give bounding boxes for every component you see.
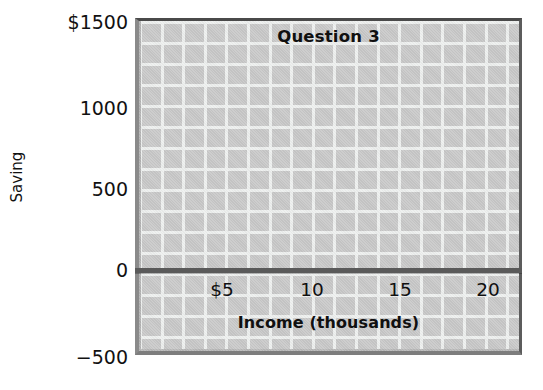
y-tick-label: 0 [0, 258, 128, 282]
x-tick-15: 15 [365, 279, 435, 300]
zero-reference-line [135, 268, 522, 273]
y-axis-title: Saving [8, 137, 26, 217]
x-axis-title: Income (thousands) [135, 313, 522, 332]
x-tick-10: 10 [277, 279, 347, 300]
plot-texture-overlay [139, 21, 519, 351]
y-tick-1000: 1000 [0, 96, 128, 120]
plot-area [135, 18, 522, 355]
y-tick-label: 1000 [0, 96, 128, 120]
chart-figure: Question 3 $1500 1000 500 0 −500 Saving … [0, 0, 543, 390]
y-tick-label: −500 [0, 345, 128, 369]
chart-title: Question 3 [135, 27, 522, 46]
x-tick-20: 20 [453, 279, 523, 300]
y-tick-0: 0 [0, 258, 128, 282]
y-tick-minus500: −500 [0, 345, 128, 369]
x-tick-5: $5 [187, 279, 257, 300]
y-tick-1500: $1500 [0, 10, 128, 34]
y-tick-label: $1500 [0, 10, 128, 34]
